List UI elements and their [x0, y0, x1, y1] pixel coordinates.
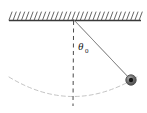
angle-label: θ 0 [78, 40, 89, 55]
ceiling-hatching [9, 12, 142, 20]
swing-arc [9, 77, 137, 97]
pendulum-diagram-canvas: θ 0 [0, 0, 147, 113]
pendulum-figure: θ 0 [0, 0, 147, 113]
vertical-reference-dashed-line [73, 21, 74, 106]
pendulum-bob [126, 75, 136, 85]
angle-subscript: 0 [85, 47, 89, 55]
angle-symbol: θ [78, 40, 84, 52]
